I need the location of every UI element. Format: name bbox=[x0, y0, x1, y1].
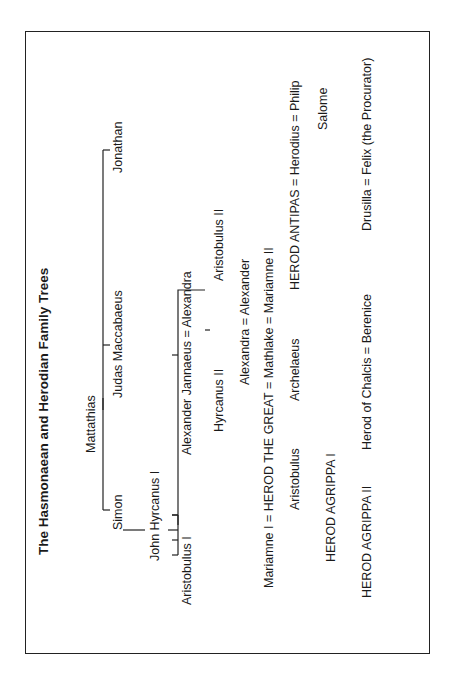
person-judas-maccabaeus: Judas Maccabaeus bbox=[111, 290, 125, 398]
person-archelaeus: Archelaeus bbox=[288, 338, 302, 401]
family-tree-diagram: The Hasmonaean and Herodian Family Trees… bbox=[0, 0, 456, 685]
diagram-title: The Hasmonaean and Herodian Family Trees bbox=[36, 268, 51, 555]
tree-connector-lines bbox=[0, 0, 456, 685]
couple-herod-antipas-herodius-philip: HEROD ANTIPAS = Herodius = Philip bbox=[288, 80, 302, 290]
couple-drusilla-felix: Drusilla = Felix (the Procurator) bbox=[360, 58, 374, 231]
person-jonathan: Jonathan bbox=[111, 122, 125, 173]
couple-alexandra-alexander: Alexandra = Alexander bbox=[238, 259, 252, 385]
person-aristobulus-i: Aristobulus I bbox=[180, 536, 194, 605]
couple-alexander-jannaeus-alexandra: Alexander Jannaeus = Alexandra bbox=[180, 271, 194, 455]
person-aristobulus: Aristobulus bbox=[288, 448, 302, 510]
person-aristobulus-ii: Aristobulus II bbox=[212, 209, 226, 281]
person-salome: Salome bbox=[316, 88, 330, 130]
person-hyrcanus-ii: Hyrcanus II bbox=[212, 369, 226, 432]
person-herod-agrippa-i: HEROD AGRIPPA I bbox=[324, 453, 338, 562]
couple-herod-of-chalcis-berenice: Herod of Chalcis = Berenice bbox=[360, 294, 374, 450]
person-simon: Simon bbox=[111, 495, 125, 530]
person-john-hyrcanus-i: John Hyrcanus I bbox=[148, 471, 162, 561]
couple-herod-the-great-wives: Mariamne I = HEROD THE GREAT = Mathlake … bbox=[262, 247, 276, 588]
person-herod-agrippa-ii: HEROD AGRIPPA II bbox=[360, 486, 374, 598]
person-mattathias: Mattathias bbox=[84, 395, 98, 453]
